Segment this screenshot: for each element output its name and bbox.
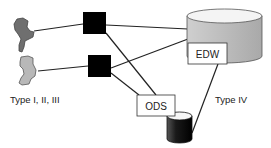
edge-process2-ods (111, 73, 139, 95)
ods-cylinder (167, 112, 192, 143)
source-shape-1-icon (14, 18, 34, 52)
source-shape-2-icon (19, 56, 36, 85)
edw-label-box: EDW (188, 43, 227, 64)
ods-label-box: ODS (137, 95, 175, 116)
ods-label: ODS (145, 101, 167, 112)
edge-source2-process2 (38, 66, 88, 71)
process-square-1 (83, 12, 106, 34)
sources-caption: Type I, II, III (10, 94, 60, 105)
diagram-canvas: EDW ODS Type I, II, III Type IV (0, 0, 271, 148)
type-iv-caption: Type IV (215, 94, 248, 105)
edw-label: EDW (196, 49, 220, 60)
process-square-2 (88, 55, 111, 77)
edge-process1-ods (106, 33, 156, 95)
edge-process1-edw (106, 25, 188, 29)
edge-source1-process1 (34, 24, 83, 31)
